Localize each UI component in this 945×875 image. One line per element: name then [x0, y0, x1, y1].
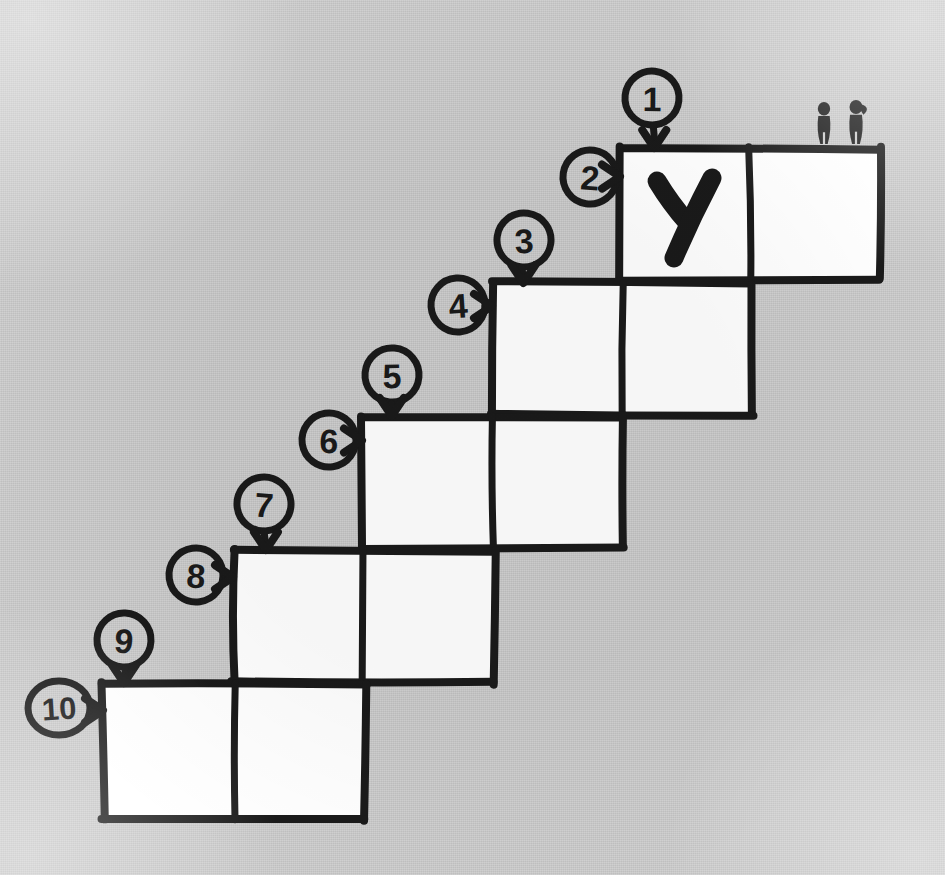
- callout-6-number: 6: [319, 422, 339, 461]
- step-4-cell-divider: [362, 549, 363, 684]
- person-right-figure: [849, 100, 867, 145]
- cell-fill-step1-cell2: [750, 148, 880, 280]
- step-3-edge-right: [622, 415, 623, 547]
- callout-4[interactable]: 4: [429, 276, 492, 334]
- step-5-edge-left: [101, 682, 104, 819]
- callout-8[interactable]: 8: [166, 545, 233, 606]
- callout-3-number: 3: [514, 222, 535, 261]
- callout-2[interactable]: 2: [559, 146, 620, 207]
- callout-7[interactable]: 7: [234, 474, 294, 550]
- step-4-edge-left: [233, 549, 235, 684]
- callout-1-number: 1: [642, 80, 661, 118]
- person-right-leg-gap: [855, 132, 857, 145]
- step-1-cell-divider: [749, 147, 751, 279]
- callout-10[interactable]: 10: [28, 681, 103, 736]
- callout-2-number: 2: [579, 158, 600, 197]
- step-4-edge-right: [494, 550, 496, 685]
- callout-9[interactable]: 9: [96, 612, 153, 683]
- cell-fill-step2-cell1: [492, 283, 622, 415]
- step-5-edge-right: [364, 684, 366, 821]
- diagram-canvas: 12345678910 y12345678910: [0, 0, 945, 875]
- callout-6[interactable]: 6: [298, 409, 362, 470]
- person-left-figure: [818, 102, 831, 145]
- callout-1[interactable]: 1: [622, 68, 682, 148]
- staircase-drawing: 12345678910: [0, 0, 945, 875]
- callout-3[interactable]: 3: [494, 210, 555, 283]
- cell-fill-step3-cell2: [493, 416, 624, 548]
- step-1-edge-left: [619, 146, 620, 279]
- person-left-leg-gap: [823, 132, 825, 145]
- staircase-svg: 12345678910: [0, 0, 945, 875]
- callout-9-number: 9: [113, 621, 135, 660]
- callout-5[interactable]: 5: [363, 346, 422, 416]
- cell-fill-step5-cell2: [234, 683, 365, 820]
- callout-10-number: 10: [41, 690, 78, 727]
- step-5-cell-divider: [234, 683, 235, 819]
- cell-fill-step4-cell1: [233, 550, 364, 683]
- cell-fill-step2-cell2: [622, 283, 752, 415]
- step-1-edge-right: [880, 147, 881, 279]
- callout-7-number: 7: [253, 485, 275, 524]
- cell-fill-step4-cell2: [364, 550, 495, 683]
- cell-fill-step3-cell1: [362, 416, 493, 548]
- callout-8-number: 8: [185, 556, 206, 595]
- person-left-head: [818, 102, 830, 115]
- step-3-cell-divider: [492, 416, 493, 547]
- callout-5-number: 5: [382, 357, 402, 395]
- step-2-cell-divider: [622, 283, 623, 415]
- cell-fill-step5-cell1: [103, 683, 234, 820]
- callout-4-number: 4: [447, 286, 468, 325]
- person-right-ponytail: [860, 104, 867, 115]
